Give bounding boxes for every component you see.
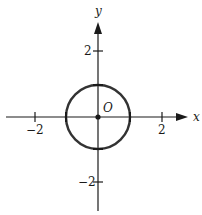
coordinate-plane: y x O −2 2 2 −2 bbox=[0, 0, 202, 215]
y-axis-label: y bbox=[94, 4, 102, 18]
x-axis-arrow-icon bbox=[176, 113, 188, 121]
x-tick-label-neg2: −2 bbox=[26, 123, 44, 137]
x-tick-label-2: 2 bbox=[158, 123, 166, 137]
y-axis-arrow-icon bbox=[94, 22, 102, 34]
origin-label: O bbox=[103, 101, 113, 115]
origin-point bbox=[95, 114, 100, 119]
circle-diagram: y x O −2 2 2 −2 bbox=[0, 0, 202, 215]
x-axis-label: x bbox=[193, 110, 200, 124]
y-tick-label-2: 2 bbox=[84, 44, 92, 58]
y-tick-label-neg2: −2 bbox=[78, 175, 96, 189]
